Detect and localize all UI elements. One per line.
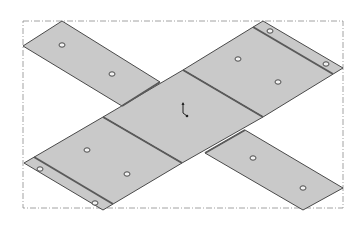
hole-bl-2 xyxy=(124,172,130,176)
hole-bl-hem-1 xyxy=(37,167,43,171)
hole-tl-2 xyxy=(109,72,115,76)
hole-tr-2 xyxy=(275,80,281,84)
hole-tr-hem-2 xyxy=(323,62,329,66)
hole-br-2 xyxy=(300,186,306,190)
hole-bl-1 xyxy=(84,148,90,152)
hole-tl-1 xyxy=(59,43,65,47)
hole-br-1 xyxy=(250,156,256,160)
flat-pattern-drawing xyxy=(0,0,361,230)
hole-tr-hem-1 xyxy=(267,29,273,33)
hole-bl-hem-2 xyxy=(92,201,98,205)
hole-tr-1 xyxy=(235,57,241,61)
